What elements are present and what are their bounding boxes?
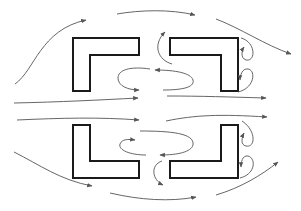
- streamline: [117, 11, 195, 15]
- airflow-diagram: [0, 0, 301, 211]
- block-top-right: [170, 38, 238, 91]
- blocks: [73, 38, 238, 178]
- streamline: [110, 193, 196, 200]
- streamline: [238, 69, 253, 92]
- streamline: [241, 38, 253, 60]
- streamline: [166, 115, 267, 121]
- streamline: [167, 96, 266, 98]
- streamline: [242, 121, 253, 146]
- streamline: [120, 139, 146, 155]
- streamline: [154, 161, 163, 185]
- streamline: [118, 68, 150, 90]
- streamline: [240, 156, 253, 178]
- block-top-left: [73, 38, 139, 91]
- streamlines: [14, 11, 291, 200]
- streamline: [155, 70, 193, 90]
- block-bottom-right: [170, 125, 238, 178]
- streamline: [140, 131, 193, 155]
- streamline: [17, 118, 139, 120]
- streamline: [14, 98, 138, 103]
- block-bottom-left: [73, 125, 139, 178]
